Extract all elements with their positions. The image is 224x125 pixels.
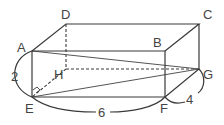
prism-diagram: D C A B H G E F 2 6 4 xyxy=(0,0,224,125)
arc-FG-bottom xyxy=(165,97,185,103)
right-angle-mark xyxy=(33,87,40,93)
dimension-AE: 2 xyxy=(11,69,18,84)
arc-EF-right xyxy=(110,97,165,112)
label-A: A xyxy=(17,40,26,55)
face-right-CGF xyxy=(165,24,199,97)
arc-EF-left xyxy=(32,97,96,112)
label-G: G xyxy=(203,67,213,82)
label-F: F xyxy=(160,101,168,116)
label-C: C xyxy=(203,7,212,22)
dimension-FG: 4 xyxy=(186,92,193,107)
dimension-EF: 6 xyxy=(98,105,105,120)
face-top-ADCB xyxy=(32,24,199,51)
label-H: H xyxy=(54,67,63,82)
label-D: D xyxy=(61,7,70,22)
label-B: B xyxy=(153,35,162,50)
label-E: E xyxy=(25,101,34,116)
